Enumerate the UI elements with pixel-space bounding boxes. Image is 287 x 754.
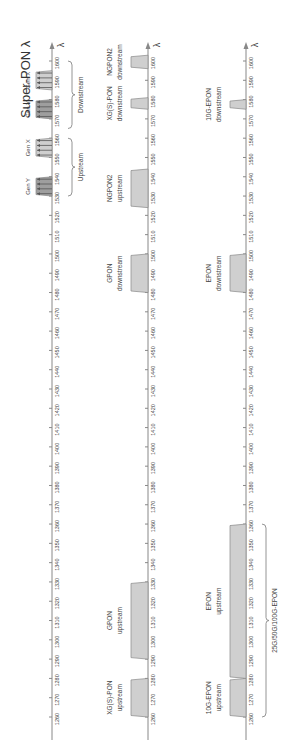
band-label-line1: GPON <box>106 263 113 282</box>
tick-label: 1310 <box>54 616 60 628</box>
tick-label: 1420 <box>150 404 156 416</box>
tick-label: 1300 <box>54 636 60 648</box>
spectrum-band <box>230 524 246 678</box>
band-label-line1: GPON <box>106 611 113 630</box>
band-label: Gen Y <box>25 178 31 195</box>
spectrum-band <box>131 169 148 208</box>
tick-label: 1510 <box>248 231 254 243</box>
tick-label: 1570 <box>54 115 60 127</box>
tick-label: 1550 <box>54 153 60 165</box>
tick-label: 1320 <box>248 597 254 609</box>
tick-label: 1600 <box>54 57 60 69</box>
band-label-line1: 10G-EPON <box>205 681 212 714</box>
tick-label: 1310 <box>248 616 254 628</box>
tick-label: 1360 <box>248 520 254 532</box>
spectrum-band <box>230 254 246 293</box>
tick-label: 1590 <box>248 76 254 88</box>
tick-label: 1310 <box>150 616 156 628</box>
tick-label: 1300 <box>150 636 156 648</box>
tick-label: 1320 <box>150 597 156 609</box>
tick-label: 1460 <box>54 327 60 339</box>
tick-label: 1520 <box>54 211 60 223</box>
axis-arrow-icon <box>244 42 249 49</box>
tick-label: 1290 <box>54 655 60 667</box>
band-label-line1: 10G-EPON <box>205 88 212 121</box>
tick-label: 1440 <box>150 366 156 378</box>
tick-label: 1390 <box>150 462 156 474</box>
tick-label: 1430 <box>248 385 254 397</box>
tick-label: 1270 <box>248 694 254 706</box>
tick-label: 1320 <box>54 597 60 609</box>
tick-label: 1350 <box>54 539 60 551</box>
band-label-line2: downstream <box>116 256 123 291</box>
tick-label: 1330 <box>150 578 156 590</box>
band-label: Gen X <box>25 139 31 156</box>
range-bracket <box>68 61 75 129</box>
tick-label: 1580 <box>248 95 254 107</box>
tick-label: 1460 <box>150 327 156 339</box>
tick-label: 1480 <box>248 288 254 300</box>
tick-label: 1500 <box>54 250 60 262</box>
tick-label: 1470 <box>248 308 254 320</box>
tick-label: 1490 <box>54 269 60 281</box>
band-label-line1: EPON <box>205 264 212 283</box>
tick-label: 1480 <box>54 288 60 300</box>
tick-label: 1400 <box>248 443 254 455</box>
tick-label: 1370 <box>150 501 156 513</box>
tick-label: 1550 <box>150 153 156 165</box>
tick-label: 1600 <box>150 57 156 69</box>
range-bracket <box>262 524 269 717</box>
tick-label: 1350 <box>150 539 156 551</box>
tick-label: 1500 <box>248 250 254 262</box>
tick-label: 1390 <box>54 462 60 474</box>
tick-label: 1390 <box>248 462 254 474</box>
band-label-line2: upstream <box>116 607 124 634</box>
tick-label: 1530 <box>248 192 254 204</box>
tick-label: 1280 <box>54 674 60 686</box>
axis-arrow-icon <box>146 42 151 49</box>
tick-label: 1560 <box>248 134 254 146</box>
tick-label: 1510 <box>54 231 60 243</box>
tick-label: 1530 <box>54 192 60 204</box>
tick-label: 1580 <box>150 95 156 107</box>
tick-label: 1270 <box>150 694 156 706</box>
spectrum-band <box>131 678 148 717</box>
tick-label: 1510 <box>150 231 156 243</box>
tick-label: 1600 <box>248 57 254 69</box>
tick-label: 1260 <box>150 713 156 725</box>
tick-label: 1570 <box>150 115 156 127</box>
band-label-line1: NGPON2 <box>106 174 113 202</box>
tick-label: 1410 <box>54 423 60 435</box>
tick-label: 1410 <box>150 423 156 435</box>
tick-label: 1370 <box>54 501 60 513</box>
band-label-line2: upstream <box>116 175 124 202</box>
band-label-line1: XG(S)-PON <box>106 86 114 121</box>
band-label-line2: downstream <box>116 86 123 121</box>
tick-label: 1520 <box>248 211 254 223</box>
band-label-line1: EPON <box>205 592 212 611</box>
spectrum-band <box>230 678 246 717</box>
band-label-line2: downstream <box>215 87 222 122</box>
tick-label: 1540 <box>150 173 156 185</box>
lambda-symbol: λ <box>250 42 260 47</box>
band-label-line2: upstream <box>116 684 124 711</box>
tick-label: 1380 <box>150 481 156 493</box>
spectrum-band <box>131 98 148 110</box>
tick-label: 1340 <box>54 559 60 571</box>
axis-arrow-icon <box>50 42 55 49</box>
diagram-svg: λ126012701280129013001310132013301340135… <box>0 0 287 754</box>
tick-label: 1360 <box>150 520 156 532</box>
tick-label: 1330 <box>54 578 60 590</box>
tick-label: 1570 <box>248 115 254 127</box>
tick-label: 1440 <box>54 366 60 378</box>
tick-label: 1290 <box>248 655 254 667</box>
tick-label: 1460 <box>248 327 254 339</box>
tick-label: 1260 <box>54 713 60 725</box>
tick-label: 1380 <box>248 481 254 493</box>
spectrum-band <box>131 254 148 293</box>
tick-label: 1560 <box>54 134 60 146</box>
tick-label: 1280 <box>248 674 254 686</box>
tick-label: 1540 <box>54 173 60 185</box>
band-label-line2: downstream <box>116 44 123 79</box>
tick-label: 1280 <box>150 674 156 686</box>
